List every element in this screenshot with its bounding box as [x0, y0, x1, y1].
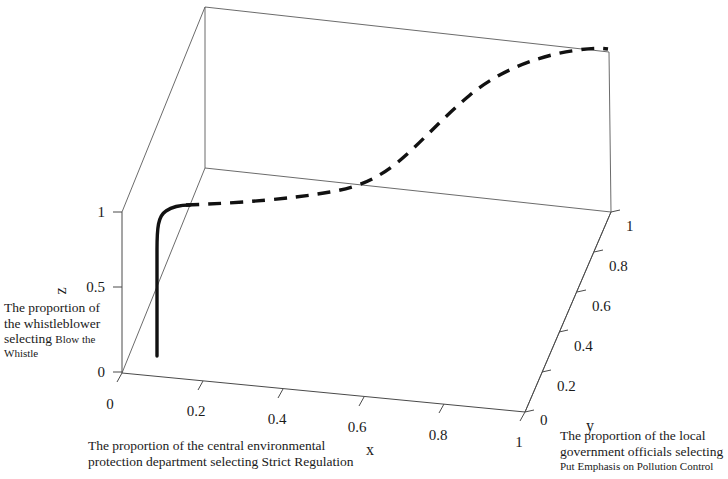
plot-figure: 1 0.5 0 z 0 0.2 0.4 0.6 0.8 1 x — [0, 0, 728, 479]
z-ticklabel-1: 1 — [98, 204, 106, 220]
y-tick-0p8 — [594, 250, 603, 252]
x-tick-0p4 — [278, 389, 283, 398]
x-ticklabel-0p4: 0.4 — [268, 411, 287, 427]
y-ticklabel-0p8: 0.8 — [609, 258, 628, 274]
frame-edge-back-floor — [205, 168, 611, 212]
y-caption-small: Put Emphasis on Pollution Control — [560, 460, 728, 473]
z-caption-line3-text: selecting — [4, 331, 52, 346]
y-caption-line2: government officials selecting — [560, 444, 728, 460]
y-ticklabel-0p4: 0.4 — [574, 338, 593, 354]
axes-box-frame — [122, 7, 611, 412]
x-tick-1 — [520, 412, 525, 421]
series-dashed-trajectory — [186, 48, 608, 205]
series-solid-trajectory — [157, 205, 190, 356]
x-caption-line1: The proportion of the central environmen… — [88, 438, 388, 454]
x-axis-caption: The proportion of the central environmen… — [88, 438, 388, 470]
x-ticklabel-1: 1 — [515, 434, 523, 450]
y-tick-0 — [525, 410, 534, 412]
frame-edge-left-top-diagonal — [122, 7, 205, 212]
x-tick-0p2 — [198, 381, 203, 390]
z-axis-name: z — [52, 287, 69, 294]
z-axis-caption: The proportion of the whistleblower sele… — [4, 300, 114, 359]
z-caption-small1: Blow the — [55, 333, 95, 345]
y-ticklabel-1: 1 — [626, 218, 634, 234]
z-caption-line1: The proportion of — [4, 300, 114, 316]
y-caption-line1: The proportion of the local — [560, 428, 728, 444]
frame-edge-floor-left-diagonal — [122, 168, 205, 373]
z-caption-line3: selecting Blow the — [4, 331, 114, 347]
y-ticklabel-0p6: 0.6 — [592, 298, 611, 314]
z-ticklabel-0p5: 0.5 — [86, 279, 105, 295]
z-ticklabel-0: 0 — [98, 364, 106, 380]
x-caption-line2: protection department selecting Strict R… — [88, 454, 388, 470]
frame-edge-right-vertical — [609, 52, 611, 212]
x-ticklabel-0p8: 0.8 — [429, 427, 448, 443]
x-ticklabel-0p2: 0.2 — [187, 403, 206, 419]
y-tick-0p6 — [577, 290, 586, 292]
data-curves — [157, 48, 608, 356]
x-tick-0 — [117, 373, 122, 382]
frame-edge-top-back — [205, 7, 609, 52]
z-caption-line2: the whistleblower — [4, 316, 114, 332]
y-tick-1 — [611, 210, 620, 212]
x-ticklabel-0p6: 0.6 — [348, 419, 367, 435]
x-tick-0p8 — [439, 404, 444, 413]
z-caption-small2: Whistle — [4, 347, 114, 360]
y-axis: 1 0.8 0.6 0.4 0.2 0 y — [525, 210, 634, 435]
x-axis-line — [122, 373, 525, 412]
y-ticklabel-0p2: 0.2 — [557, 378, 576, 394]
y-axis-caption: The proportion of the local government o… — [560, 428, 728, 474]
x-tick-0p6 — [359, 397, 364, 406]
plot-svg: 1 0.5 0 z 0 0.2 0.4 0.6 0.8 1 x — [0, 0, 728, 479]
y-ticklabel-0: 0 — [540, 412, 548, 428]
x-ticklabel-0: 0 — [106, 396, 114, 412]
